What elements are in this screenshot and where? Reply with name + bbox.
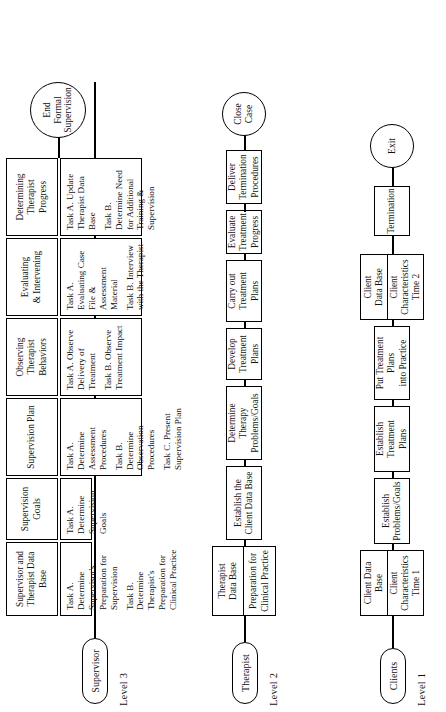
task-item: Task A. Observe Delivery of Treatment bbox=[65, 324, 98, 390]
connector-supervisor-spine bbox=[94, 616, 96, 638]
terminator-exit: Exit bbox=[370, 124, 414, 168]
level-3-label: Level 3 bbox=[118, 673, 129, 706]
node-therapist-data-base: Therapist Data Base Preparation for Clin… bbox=[212, 546, 276, 616]
phase-evaluating-intervening: Evaluating & Intervening bbox=[6, 238, 58, 316]
tasks-supervisor-therapist-data-base: Task A. Determine Supervisor's Preparati… bbox=[60, 542, 92, 616]
phase-text: Supervisor and Therapist Data Base bbox=[15, 546, 50, 612]
node-label-cell: Client Data Base bbox=[361, 255, 388, 319]
lane-level-2: Level 2 Therapist Therapist Data Base Pr… bbox=[150, 0, 298, 712]
task-item: Task A. Determine Assessment Procedures bbox=[65, 404, 109, 470]
terminator-text: Close Case bbox=[233, 103, 254, 125]
phase-text: Evaluating & Intervening bbox=[20, 251, 43, 303]
node-carry-out-treatment-plans: Carry out Treatment Plans bbox=[226, 260, 262, 322]
phase-text: Supervision Goals bbox=[20, 482, 43, 536]
actor-supervisor: Supervisor bbox=[82, 638, 108, 704]
phase-text: Determining Therapist Progress bbox=[15, 174, 50, 221]
node-label-cell: Therapist Data Base bbox=[213, 547, 244, 615]
connector-to-end-formal-supervision bbox=[58, 136, 60, 158]
phase-text: Supervision Plan bbox=[26, 405, 38, 468]
node-evaluate-treatment-progress: Evaluate Treatment Progress bbox=[226, 210, 262, 254]
node-label-cell: Client Data Base bbox=[361, 551, 388, 615]
phase-determining-therapist-progress: Determining Therapist Progress bbox=[6, 158, 58, 236]
tasks-observing-therapist-behaviors: Task A. Observe Delivery of Treatment Ta… bbox=[60, 318, 142, 396]
node-termination: Termination bbox=[374, 186, 410, 236]
node-put-treatment-plans-into-practice: Put Treatment Plans into Practice bbox=[374, 326, 410, 400]
actor-therapist: Therapist bbox=[232, 642, 258, 704]
node-content-cell: Preparation for Clinical Practice bbox=[244, 547, 275, 615]
phase-observing-therapist-behaviors: Observing Therapist Behaviors bbox=[6, 318, 58, 396]
node-establish-client-data-base: Establish the Client Data Base bbox=[226, 466, 262, 540]
level-2-label: Level 2 bbox=[268, 673, 279, 706]
actor-therapist-label: Therapist bbox=[240, 654, 251, 692]
level-1-label: Level 1 bbox=[416, 673, 427, 706]
tasks-supervision-goals: Task A. Determine Supervision Goals bbox=[60, 478, 92, 540]
task-item: Task A. Determine Supervision Goals bbox=[65, 484, 109, 534]
connector-clients-spine bbox=[392, 616, 394, 648]
node-develop-treatment-plans: Develop Treatment Plans bbox=[226, 328, 262, 380]
lane-level-3: Level 3 Supervisor Supervisor and Therap… bbox=[0, 0, 150, 712]
flowchart-canvas: Level 3 Supervisor Supervisor and Therap… bbox=[0, 0, 446, 712]
node-determine-therapy-problems-goals: Determine Therapy Problems/Goals bbox=[226, 386, 262, 460]
task-item: Task A. Evaluating Case File & Assessmen… bbox=[65, 244, 120, 310]
node-client-data-base-time-2: Client Data Base Client Characteristics … bbox=[360, 254, 424, 320]
terminator-text: Exit bbox=[387, 138, 398, 154]
node-client-data-base-time-1: Client Data Base Client Characteristics … bbox=[360, 550, 424, 616]
node-establish-treatment-plans: Establish Treatment Plans bbox=[374, 406, 410, 472]
node-establish-problems-goals: Establish Problems/Goals bbox=[374, 478, 410, 544]
terminator-end-formal-supervision: End Formal Supervision bbox=[30, 82, 86, 138]
phase-supervision-plan: Supervision Plan bbox=[6, 398, 58, 476]
terminator-close-case: Close Case bbox=[222, 92, 266, 136]
phase-supervision-goals: Supervision Goals bbox=[6, 478, 58, 540]
connector-therapist-spine bbox=[244, 616, 246, 642]
connector-to-close-case bbox=[244, 134, 246, 150]
actor-clients-label: Clients bbox=[388, 662, 399, 690]
node-content-cell: Client Characteristics Time 2 bbox=[388, 255, 423, 319]
connector-to-exit bbox=[392, 166, 394, 186]
task-item: Task B. Observe Treatment Impact bbox=[103, 324, 125, 390]
terminator-text: End Formal Supervision bbox=[42, 87, 74, 132]
actor-supervisor-label: Supervisor bbox=[90, 649, 101, 692]
task-item: Task B. Interview with the Therapist bbox=[125, 244, 147, 310]
lane-level-1: Level 1 Clients Client Data Base Client … bbox=[298, 0, 446, 712]
node-content-cell: Client Characteristics Time 1 bbox=[388, 551, 423, 615]
tasks-evaluating-intervening: Task A. Evaluating Case File & Assessmen… bbox=[60, 238, 142, 316]
tasks-determining-therapist-progress: Task A. Update Therapist Data Base Task … bbox=[60, 158, 142, 236]
phase-text: Observing Therapist Behaviors bbox=[15, 338, 50, 377]
task-item: Task A. Determine Supervisor's Preparati… bbox=[65, 548, 120, 610]
actor-clients: Clients bbox=[380, 648, 406, 704]
phase-supervisor-therapist-data-base: Supervisor and Therapist Data Base bbox=[6, 542, 58, 616]
tasks-supervision-plan: Task A. Determine Assessment Procedures … bbox=[60, 398, 142, 476]
task-item: Task A. Update Therapist Data Base bbox=[65, 164, 98, 230]
node-deliver-termination-procedures: Deliver Termination Procedures bbox=[226, 150, 262, 204]
